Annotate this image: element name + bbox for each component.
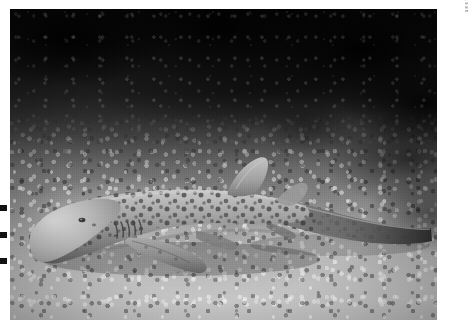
first-dorsal-fin	[228, 157, 268, 196]
border-left	[0, 0, 10, 335]
photograph-plate	[10, 9, 437, 320]
margin-tick	[0, 232, 7, 238]
border-top	[0, 0, 466, 9]
border-right	[437, 0, 466, 335]
spiracle	[92, 224, 96, 227]
margin-tick	[0, 205, 7, 211]
photo-credit: ED ROBINSON / 1985	[464, 0, 468, 14]
eye	[79, 218, 86, 222]
second-dorsal-fin	[278, 183, 308, 206]
zebra-shark	[10, 9, 437, 320]
margin-tick	[0, 258, 7, 264]
border-bottom	[0, 320, 466, 335]
